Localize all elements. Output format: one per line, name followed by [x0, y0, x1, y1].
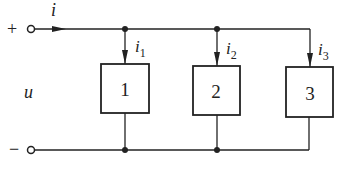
branch-current-label-1: i1	[135, 37, 146, 60]
branch-1: 1 i1	[101, 29, 149, 150]
element-label-1: 1	[120, 79, 130, 100]
plus-terminal	[28, 26, 35, 33]
element-label-2: 2	[211, 81, 221, 102]
circuit-diagram: + − i u 1 i1 2 i2 3 i3	[0, 0, 347, 179]
plus-sign: +	[7, 19, 17, 39]
branch-current-arrow-icon	[307, 53, 313, 67]
total-current-label: i	[51, 0, 56, 20]
branch-2: 2 i2	[193, 29, 240, 150]
voltage-label: u	[24, 82, 33, 102]
current-arrow-icon	[52, 26, 66, 32]
branch-current-arrow-icon	[122, 50, 128, 64]
branch-current-arrow-icon	[214, 52, 220, 66]
branch-current-label-2: i2	[226, 39, 237, 62]
branch-current-label-3: i3	[318, 40, 329, 63]
minus-terminal	[28, 147, 35, 154]
element-label-3: 3	[305, 83, 315, 104]
minus-sign: −	[9, 139, 19, 159]
